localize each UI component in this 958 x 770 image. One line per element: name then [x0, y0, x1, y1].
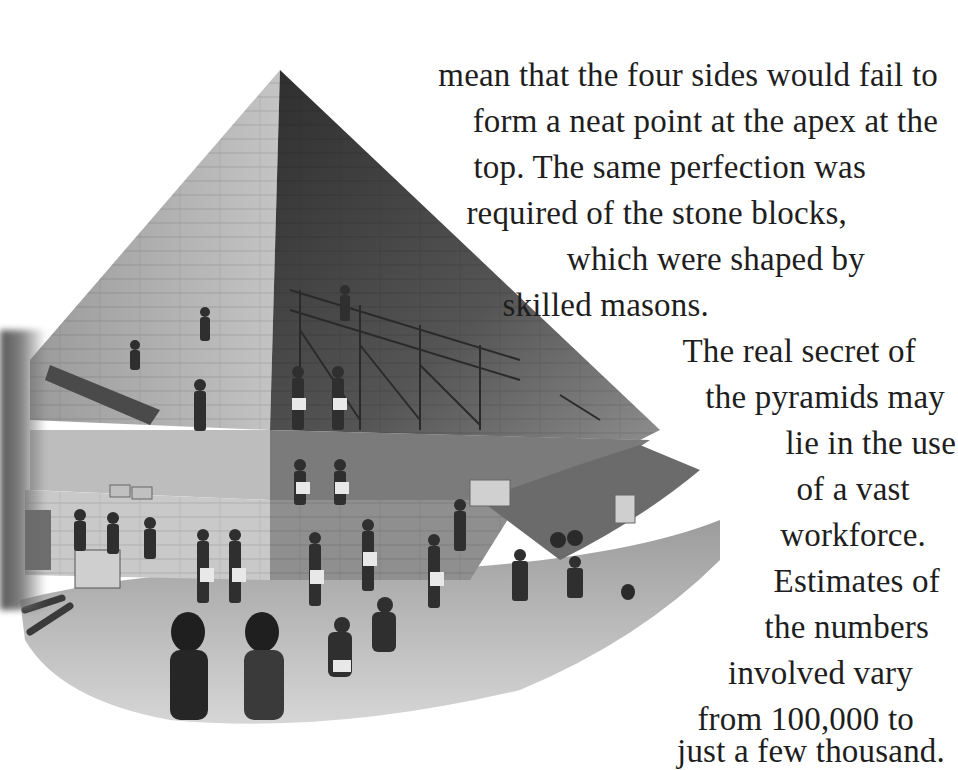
text-line: The real secret of: [682, 328, 916, 374]
text-line: just a few thousand.: [677, 728, 945, 770]
text-line: the numbers: [765, 604, 929, 650]
text-line: lie in the use: [785, 420, 956, 466]
text-line: required of the stone blocks,: [466, 190, 847, 236]
text-line: mean that the four sides would fail to: [438, 52, 938, 98]
text-line: workforce.: [780, 512, 926, 558]
body-text: mean that the four sides would fail to f…: [0, 0, 958, 770]
text-line: the pyramids may: [705, 374, 945, 420]
text-line: involved vary: [728, 650, 913, 696]
text-line: which were shaped by: [567, 236, 865, 282]
text-line: form a neat point at the apex at the: [473, 98, 938, 144]
text-line: skilled masons.: [503, 282, 710, 328]
book-page: mean that the four sides would fail to f…: [0, 0, 958, 770]
text-line: top. The same perfection was: [473, 144, 866, 190]
text-line: of a vast: [796, 466, 910, 512]
text-line: Estimates of: [774, 558, 940, 604]
